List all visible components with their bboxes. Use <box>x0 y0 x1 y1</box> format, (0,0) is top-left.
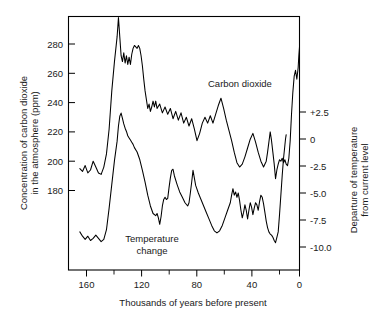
co2-temperature-figure: 280 260 240 220 200 180 +2.5 0 -2.5 -5.0… <box>0 0 378 322</box>
y-axis-left-ticks <box>69 44 76 191</box>
y-axis-left-tick-label-280: 280 <box>47 39 63 50</box>
y-axis-right-tick-label-minus7-5: -7.5 <box>310 215 326 226</box>
x-axis-title: Thousands of years before present <box>119 297 267 308</box>
carbon-dioxide-series-label: Carbon dioxide <box>208 78 272 89</box>
y-axis-left-title-line1: Concentration of carbon dioxide <box>18 76 29 210</box>
temperature-series-label-line2: change <box>136 245 167 256</box>
y-axis-right-title-line1: Departure of temperature <box>348 127 359 234</box>
temperature-change-curve <box>80 113 286 243</box>
temperature-series-label-line1: Temperature <box>125 233 178 244</box>
x-axis-tick-label-120: 120 <box>134 279 150 290</box>
y-axis-left-tick-label-240: 240 <box>47 97 63 108</box>
y-axis-right-tick-label-minus10-0: -10.0 <box>310 242 332 253</box>
plot-frame <box>69 17 300 271</box>
x-axis-ticks <box>87 270 300 277</box>
chart-page: 280 260 240 220 200 180 +2.5 0 -2.5 -5.0… <box>0 0 378 322</box>
x-axis-tick-label-40: 40 <box>247 279 258 290</box>
y-axis-right-ticks <box>300 112 307 247</box>
y-axis-right-title-line2: from current level <box>359 143 370 216</box>
y-axis-right-tick-label-minus2-5: -2.5 <box>310 161 326 172</box>
y-axis-left-tick-label-260: 260 <box>47 68 63 79</box>
y-axis-right-tick-label-minus5-0: -5.0 <box>310 188 326 199</box>
x-axis-tick-label-160: 160 <box>79 279 95 290</box>
y-axis-left-title-line2: in the atmosphere (ppm) <box>29 91 40 195</box>
carbon-dioxide-curve <box>80 18 300 179</box>
y-axis-left-tick-label-200: 200 <box>47 156 63 167</box>
y-axis-right-tick-label-0: 0 <box>310 134 315 145</box>
y-axis-left-tick-label-180: 180 <box>47 185 63 196</box>
x-axis-tick-label-80: 80 <box>192 279 203 290</box>
y-axis-right-tick-label-plus2-5: +2.5 <box>310 107 329 118</box>
y-axis-left-tick-label-220: 220 <box>47 126 63 137</box>
x-axis-tick-label-0: 0 <box>297 279 302 290</box>
